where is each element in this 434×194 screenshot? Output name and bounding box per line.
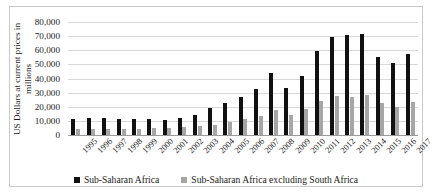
- bar: [167, 128, 171, 135]
- bar: [411, 102, 415, 135]
- bar: [117, 119, 121, 135]
- bar: [406, 54, 410, 135]
- bar-group: [129, 22, 144, 135]
- legend-item[interactable]: Sub-Saharan Africa excluding South Afric…: [181, 174, 358, 185]
- bar-group: [220, 22, 235, 135]
- bar-group: [388, 22, 403, 135]
- bar: [193, 115, 197, 135]
- bar: [178, 118, 182, 136]
- plot-area: [68, 22, 418, 135]
- legend-label: Sub-Saharan Africa: [84, 174, 159, 185]
- chart-legend: Sub-Saharan AfricaSub-Saharan Africa exc…: [9, 172, 423, 187]
- y-axis-tick-label: 60,000: [35, 45, 60, 55]
- bar: [87, 118, 91, 135]
- bar: [335, 96, 339, 135]
- y-axis-tick-label: 30,000: [35, 88, 60, 98]
- bar: [137, 129, 141, 135]
- bar-group: [251, 22, 266, 135]
- bar: [182, 127, 186, 135]
- bar: [345, 35, 349, 135]
- bar: [239, 97, 243, 135]
- x-axis-ticks: 1995199619971998199920002001200220032004…: [68, 136, 418, 170]
- bar: [147, 119, 151, 135]
- bar: [91, 129, 95, 135]
- bar-group: [403, 22, 418, 135]
- bar: [304, 109, 308, 135]
- bar-group: [114, 22, 129, 135]
- bar: [259, 116, 263, 135]
- bar: [274, 110, 278, 135]
- y-axis-tick-label: 0: [55, 130, 60, 140]
- bar: [208, 108, 212, 135]
- bar-group: [175, 22, 190, 135]
- bar: [300, 76, 304, 135]
- y-axis-ticks: 80,00070,00060,00050,00040,00030,00020,0…: [0, 22, 64, 135]
- bar-group: [372, 22, 387, 135]
- y-axis-tick-label: 10,000: [35, 116, 60, 126]
- bar: [315, 51, 319, 135]
- legend-swatch-icon: [74, 177, 80, 183]
- bar-group: [266, 22, 281, 135]
- y-axis-tick-label: 80,000: [35, 17, 60, 27]
- x-axis-tick-label: 2017: [414, 136, 433, 155]
- bar: [152, 128, 156, 135]
- bar-group: [98, 22, 113, 135]
- y-axis-tick-label: 20,000: [35, 102, 60, 112]
- bar: [330, 37, 334, 135]
- bar-group: [190, 22, 205, 135]
- bar: [102, 118, 106, 135]
- bar-group: [327, 22, 342, 135]
- bar-group: [205, 22, 220, 135]
- bar: [106, 129, 110, 135]
- bar: [289, 115, 293, 135]
- bar: [380, 103, 384, 135]
- bar: [132, 119, 136, 135]
- bar: [376, 57, 380, 135]
- bar-group: [83, 22, 98, 135]
- bar: [365, 95, 369, 135]
- y-axis-tick-label: 40,000: [35, 74, 60, 84]
- bar: [122, 129, 126, 135]
- y-axis-tick-label: 70,000: [35, 31, 60, 41]
- bar-group: [235, 22, 250, 135]
- legend-item[interactable]: Sub-Saharan Africa: [74, 174, 159, 185]
- bar-group: [144, 22, 159, 135]
- bar: [395, 107, 399, 135]
- bar-group: [159, 22, 174, 135]
- bar: [319, 101, 323, 135]
- bar: [228, 122, 232, 135]
- bar-series-container: [68, 22, 418, 135]
- y-axis-tick-label: 50,000: [35, 59, 60, 69]
- bar: [284, 88, 288, 135]
- bar-group: [311, 22, 326, 135]
- bar-group: [296, 22, 311, 135]
- bar-group: [281, 22, 296, 135]
- bar: [71, 119, 75, 135]
- bar-group: [357, 22, 372, 135]
- bar: [350, 97, 354, 135]
- bar: [360, 34, 364, 135]
- bar: [213, 125, 217, 135]
- bar: [269, 73, 273, 135]
- legend-swatch-icon: [181, 177, 187, 183]
- bar: [243, 119, 247, 135]
- bar: [198, 126, 202, 135]
- bar: [223, 103, 227, 135]
- legend-label: Sub-Saharan Africa excluding South Afric…: [191, 174, 358, 185]
- bar: [76, 129, 80, 135]
- bar-group: [342, 22, 357, 135]
- bar: [391, 63, 395, 135]
- bar: [254, 89, 258, 135]
- bar-group: [68, 22, 83, 135]
- bar: [163, 120, 167, 135]
